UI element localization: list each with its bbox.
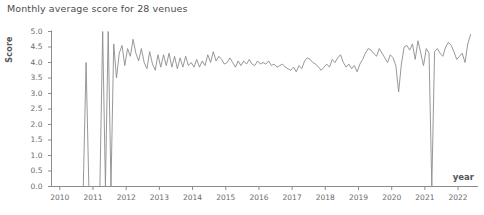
plot-area: [0, 0, 484, 215]
score-line-series: [83, 32, 470, 187]
y-axis-ticks: [48, 32, 52, 187]
x-axis-ticks: [60, 187, 458, 191]
chart-figure: Monthly average score for 28 venues Scor…: [0, 0, 484, 215]
